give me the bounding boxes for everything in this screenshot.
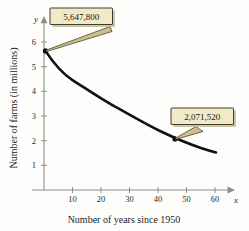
y-axis-title: Number of farms (in millions) [8, 47, 20, 168]
y-tick-label: 5 [32, 62, 36, 72]
x-tick-label: 20 [97, 194, 106, 204]
annotation-callout-second: 2,071,520 [171, 108, 236, 139]
y-tick-label: 2 [32, 136, 36, 146]
data-series-number-of-farms [43, 48, 216, 152]
curve-path [46, 51, 217, 153]
y-axis-variable-label: y [33, 14, 38, 24]
y-tick-label: 6 [32, 37, 36, 47]
y-axis-arrowhead [41, 16, 48, 23]
x-tick-label: 10 [68, 194, 77, 204]
x-tick-label: 60 [211, 194, 220, 204]
callout-pointer-second [176, 127, 204, 140]
x-tick-label: 40 [154, 194, 163, 204]
chart-canvas: 1 2 3 4 5 6 10 20 30 40 50 60 y x Number… [0, 0, 249, 231]
x-tick-label: 30 [125, 194, 134, 204]
y-tick-label: 3 [32, 111, 36, 121]
x-axis-variable-label: x [233, 195, 238, 205]
y-axis-ticks: 1 2 3 4 5 6 [32, 37, 47, 170]
y-tick-label: 4 [32, 86, 37, 96]
x-tick-label: 50 [182, 194, 191, 204]
x-axis-title: Number of years since 1950 [68, 214, 181, 225]
annotation-callout-first: 5,647,800 [46, 8, 115, 52]
callout-label-second: 2,071,520 [184, 112, 221, 122]
chart-figure: 1 2 3 4 5 6 10 20 30 40 50 60 y x Number… [0, 0, 249, 231]
callout-pointer-first [46, 27, 112, 52]
y-tick-label: 1 [32, 160, 36, 170]
x-axis-arrowhead [228, 186, 236, 193]
axes [32, 16, 235, 194]
callout-label-first: 5,647,800 [63, 12, 100, 22]
